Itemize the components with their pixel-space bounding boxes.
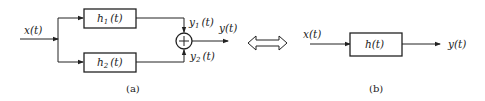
branch-top: [58, 18, 83, 39]
y2-arrow: [136, 50, 184, 62]
diagram-a: x(t) h1(t) h2(t) y1(t) y2(t) y(t) (a): [20, 9, 237, 94]
h2-label: h2(t): [97, 56, 123, 70]
caption-b: (b): [369, 83, 383, 94]
output-label-a: y(t): [218, 22, 237, 34]
y2-label: y2(t): [189, 50, 215, 64]
y1-arrow: [136, 18, 184, 32]
y1-label: y1(t): [188, 16, 214, 30]
caption-a: (a): [126, 83, 140, 94]
input-label-b: x(t): [303, 28, 321, 40]
diagram-b: x(t) h(t) y(t) (b): [303, 28, 466, 94]
branch-bottom: [58, 39, 83, 62]
h1-label: h1(t): [97, 12, 123, 26]
h-label: h(t): [365, 38, 384, 50]
parallel-system-diagram: x(t) h1(t) h2(t) y1(t) y2(t) y(t) (a) x(…: [0, 0, 485, 101]
input-label-a: x(t): [24, 24, 42, 36]
output-label-b: y(t): [447, 38, 466, 50]
equivalence-arrow-icon: [248, 36, 287, 50]
